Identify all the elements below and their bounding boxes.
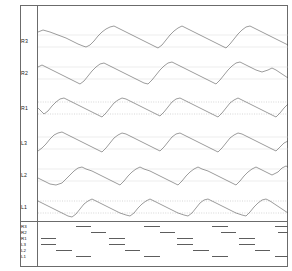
raster-burst-L3-2 — [177, 244, 193, 245]
raster-burst-R3-3 — [275, 226, 288, 227]
kinematics-svg — [38, 5, 288, 221]
raster-burst-L2-1 — [125, 250, 140, 251]
kinematics-label-R1: R1 — [21, 105, 28, 111]
raster-burst-R3-2 — [212, 226, 228, 227]
raster-label-L3: L3 — [21, 243, 26, 248]
raster-burst-L3-1 — [109, 244, 125, 245]
raster-burst-R3-1 — [144, 226, 160, 227]
raster-burst-L1-2 — [212, 256, 228, 257]
raster-burst-R2-1 — [160, 232, 175, 233]
raster-burst-L1-0 — [76, 256, 91, 257]
raster-plot-area — [38, 222, 288, 267]
raster-burst-L2-0 — [56, 250, 72, 251]
raster-label-R3: R3 — [21, 225, 27, 230]
raster-burst-R1-2 — [177, 238, 193, 239]
kinematics-label-R3: R3 — [21, 38, 28, 44]
kinematics-label-R2: R2 — [21, 70, 28, 76]
raster-burst-R1-1 — [109, 238, 125, 239]
raster-burst-R1-3 — [239, 238, 255, 239]
raster-burst-R1-0 — [41, 238, 56, 239]
raster-burst-L3-3 — [239, 244, 255, 245]
raster-label-L1: L1 — [21, 255, 26, 260]
kinematics-label-L1: L1 — [21, 204, 27, 210]
trace-L1 — [38, 199, 288, 217]
figure-root: R3 R2 R1 L3 L2 L1 R3 R2 R1 L3 L2 L1 — [0, 0, 292, 271]
kinematics-label-L2: L2 — [21, 172, 27, 178]
raster-burst-L2-3 — [255, 250, 270, 251]
raster-burst-L1-1 — [144, 256, 160, 257]
raster-burst-L3-0 — [41, 244, 56, 245]
trace-R3 — [38, 26, 288, 48]
raster-panel: R3 R2 R1 L3 L2 L1 — [20, 222, 288, 267]
raster-label-R1: R1 — [21, 237, 27, 242]
raster-burst-R3-0 — [76, 226, 91, 227]
kinematics-label-gutter: R3 R2 R1 L3 L2 L1 — [20, 5, 38, 221]
trace-R2 — [38, 62, 288, 84]
raster-label-R2: R2 — [21, 231, 27, 236]
raster-label-gutter: R3 R2 R1 L3 L2 L1 — [20, 222, 38, 267]
raster-label-L2: L2 — [21, 249, 26, 254]
kinematics-panel: R3 R2 R1 L3 L2 L1 — [20, 5, 288, 221]
raster-burst-L1-3 — [275, 256, 288, 257]
raster-burst-R2-2 — [221, 232, 236, 233]
kinematics-plot-area — [38, 5, 288, 221]
raster-burst-R2-0 — [91, 232, 106, 233]
raster-burst-R2-3 — [278, 232, 288, 233]
kinematics-label-L3: L3 — [21, 140, 27, 146]
raster-burst-L2-2 — [193, 250, 209, 251]
